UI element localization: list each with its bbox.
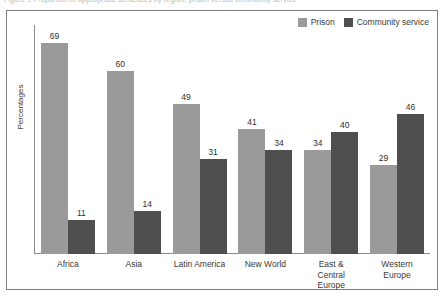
x-tick-label: Asia <box>101 259 167 291</box>
bar-wrapper: 46 <box>397 25 424 254</box>
bar-wrapper: 14 <box>134 25 161 254</box>
bar-wrapper: 60 <box>107 25 134 254</box>
clipped-caption-text: Figure 1 Proportion of appropriate sente… <box>0 0 296 3</box>
bar-value-label: 41 <box>247 117 256 127</box>
plot-area: 691160144931413434402946 <box>34 25 430 254</box>
bar-community-service <box>68 220 95 254</box>
bar-prison <box>173 104 200 254</box>
bar-value-label: 49 <box>181 92 190 102</box>
bar-value-label: 11 <box>77 208 86 218</box>
bar-prison <box>370 165 397 254</box>
x-tick-label: WesternEurope <box>364 259 430 291</box>
chart-figure: Figure 1 Proportion of appropriate sente… <box>0 0 446 296</box>
bar-value-label: 60 <box>116 59 125 69</box>
y-axis-title-text: Percentages <box>16 47 25 167</box>
bar-prison <box>238 129 265 254</box>
bar-wrapper: 11 <box>68 25 95 254</box>
bar-wrapper: 29 <box>370 25 397 254</box>
bar-value-label: 46 <box>406 102 415 112</box>
bar-group: 6014 <box>101 25 167 254</box>
bar-wrapper: 34 <box>265 25 292 254</box>
bar-value-label: 14 <box>143 199 152 209</box>
bar-wrapper: 69 <box>41 25 68 254</box>
clipped-caption: Figure 1 Proportion of appropriate sente… <box>0 0 446 9</box>
bar-group: 4134 <box>232 25 298 254</box>
bar-community-service <box>331 132 358 254</box>
bar-wrapper: 41 <box>238 25 265 254</box>
bar-value-label: 31 <box>208 147 217 157</box>
bar-community-service <box>200 159 227 254</box>
x-tick-label: Africa <box>35 259 101 291</box>
bar-community-service <box>397 114 424 254</box>
x-tick-label: Latin America <box>167 259 233 291</box>
x-tick-label: New World <box>232 259 298 291</box>
bar-value-label: 69 <box>50 31 59 41</box>
bar-community-service <box>134 211 161 254</box>
bar-community-service <box>265 150 292 254</box>
chart-panel: Prison Community service Percentages 691… <box>6 10 438 290</box>
bar-value-label: 34 <box>274 138 283 148</box>
bar-value-label: 29 <box>379 153 388 163</box>
bar-value-label: 40 <box>340 120 349 130</box>
bar-wrapper: 40 <box>331 25 358 254</box>
bar-group: 4931 <box>167 25 233 254</box>
bar-groups: 691160144931413434402946 <box>35 25 430 254</box>
bar-prison <box>41 43 68 254</box>
bar-prison <box>107 71 134 254</box>
x-tick-label: East &CentralEurope <box>298 259 364 291</box>
bar-prison <box>304 150 331 254</box>
x-axis-tick-labels: AfricaAsiaLatin AmericaNew WorldEast &Ce… <box>35 259 430 291</box>
bar-wrapper: 34 <box>304 25 331 254</box>
bar-group: 6911 <box>35 25 101 254</box>
bar-group: 3440 <box>298 25 364 254</box>
bar-wrapper: 49 <box>173 25 200 254</box>
bar-group: 2946 <box>364 25 430 254</box>
bar-value-label: 34 <box>313 138 322 148</box>
bar-wrapper: 31 <box>200 25 227 254</box>
